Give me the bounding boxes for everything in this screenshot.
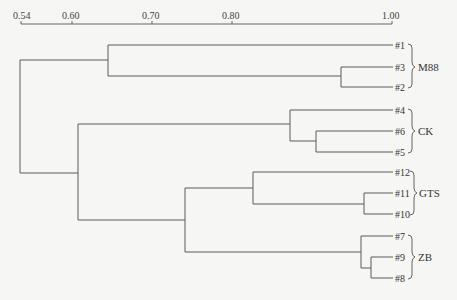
brace-m88 [408, 44, 415, 88]
leaf-label: #4 [395, 105, 405, 116]
group-label-m88: M88 [418, 61, 439, 73]
branch-6-5 [316, 131, 393, 152]
branch-3-2 [341, 67, 393, 87]
leaf-label: #8 [395, 273, 405, 284]
group-braces: M88 CK GTS ZB [408, 44, 440, 279]
brace-zb [408, 235, 415, 279]
tick-label: 0.70 [142, 10, 160, 21]
branch-gts [253, 172, 393, 204]
leaf-label: #6 [395, 126, 405, 137]
brace-ck [408, 109, 415, 153]
branch-gts-zb [185, 188, 361, 252]
tick-label: 0.54 [13, 10, 31, 21]
branch-11-10 [364, 193, 393, 214]
similarity-axis: 0.54 0.60 0.70 0.80 1.00 [13, 10, 400, 24]
tick-label: 0.80 [222, 10, 240, 21]
dendrogram-branches [20, 45, 393, 278]
branch-zb [361, 236, 393, 268]
dendrogram-chart: 0.54 0.60 0.70 0.80 1.00 #1 #3 #2 #4 #6 … [0, 0, 457, 300]
leaf-label: #7 [395, 231, 405, 242]
group-label-ck: CK [418, 125, 433, 137]
branch-ck [290, 110, 393, 141]
tick-label: 0.60 [62, 10, 80, 21]
group-label-gts: GTS [419, 187, 440, 199]
leaf-label: #2 [395, 82, 405, 93]
branch-root [20, 60, 108, 173]
leaf-label: #3 [395, 62, 405, 73]
leaf-label: #9 [395, 252, 405, 263]
group-label-zb: ZB [418, 251, 432, 263]
leaf-labels: #1 #3 #2 #4 #6 #5 #12 #11 #10 #7 #9 #8 [395, 40, 410, 284]
leaf-label: #12 [395, 167, 410, 178]
leaf-label: #5 [395, 147, 405, 158]
leaf-label: #10 [395, 209, 410, 220]
tick-label: 1.00 [382, 10, 400, 21]
leaf-label: #1 [395, 40, 405, 51]
branch-9-8 [371, 257, 393, 278]
brace-gts [410, 171, 417, 215]
leaf-label: #11 [395, 188, 410, 199]
branch-m88 [108, 45, 393, 76]
